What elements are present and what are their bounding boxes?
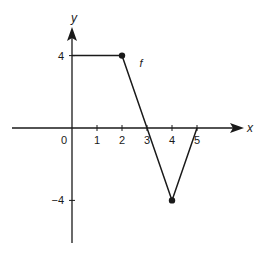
x-tick-label: 5: [194, 134, 200, 146]
x-tick-label: 3: [144, 134, 150, 146]
x-tick-label: 1: [94, 134, 100, 146]
y-tick-label: −4: [51, 194, 64, 206]
x-tick-label: 2: [119, 134, 125, 146]
axes: [12, 27, 244, 243]
x-tick-label: 0: [61, 134, 67, 146]
axis-labels: 0123454−4xyf: [51, 11, 254, 206]
function-graph: 0123454−4xyf: [0, 0, 256, 257]
y-axis-label: y: [70, 11, 78, 25]
function-point: [169, 197, 175, 203]
function-point: [119, 52, 125, 58]
x-tick-label: 4: [169, 134, 175, 146]
x-axis-label: x: [246, 121, 254, 135]
function-label: f: [139, 57, 143, 69]
y-tick-label: 4: [58, 50, 64, 62]
